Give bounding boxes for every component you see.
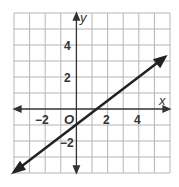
x-axis-label: x bbox=[159, 94, 166, 107]
origin-label: O bbox=[64, 113, 74, 126]
grid-lines bbox=[14, 13, 170, 173]
y-tick-neg2: −2 bbox=[60, 137, 74, 149]
y-tick-2: 2 bbox=[64, 72, 71, 84]
coordinate-plane bbox=[0, 0, 179, 187]
y-axis-label: y bbox=[80, 11, 87, 24]
x-tick-2: 2 bbox=[103, 114, 110, 126]
y-tick-4: 4 bbox=[64, 40, 71, 52]
x-tick-4: 4 bbox=[134, 114, 141, 126]
x-tick-neg2: −2 bbox=[35, 114, 49, 126]
